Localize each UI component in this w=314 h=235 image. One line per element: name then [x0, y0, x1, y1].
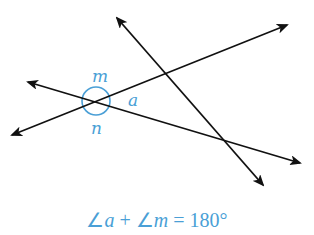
- line-2: [28, 82, 300, 163]
- equation-equals: =: [168, 209, 189, 231]
- label-a: a: [128, 90, 138, 110]
- equation-var-m: m: [154, 209, 168, 231]
- angle-symbol-icon: ∠: [136, 209, 154, 231]
- label-n: n: [91, 118, 102, 138]
- diagram-canvas: m a n: [0, 0, 314, 235]
- label-m: m: [92, 66, 108, 86]
- angle-symbol-icon: ∠: [86, 209, 104, 231]
- equation-plus: +: [114, 209, 135, 231]
- angle-equation: ∠a + ∠m = 180°: [0, 208, 314, 232]
- equation-var-a: a: [104, 209, 114, 231]
- equation-value: 180°: [190, 209, 228, 231]
